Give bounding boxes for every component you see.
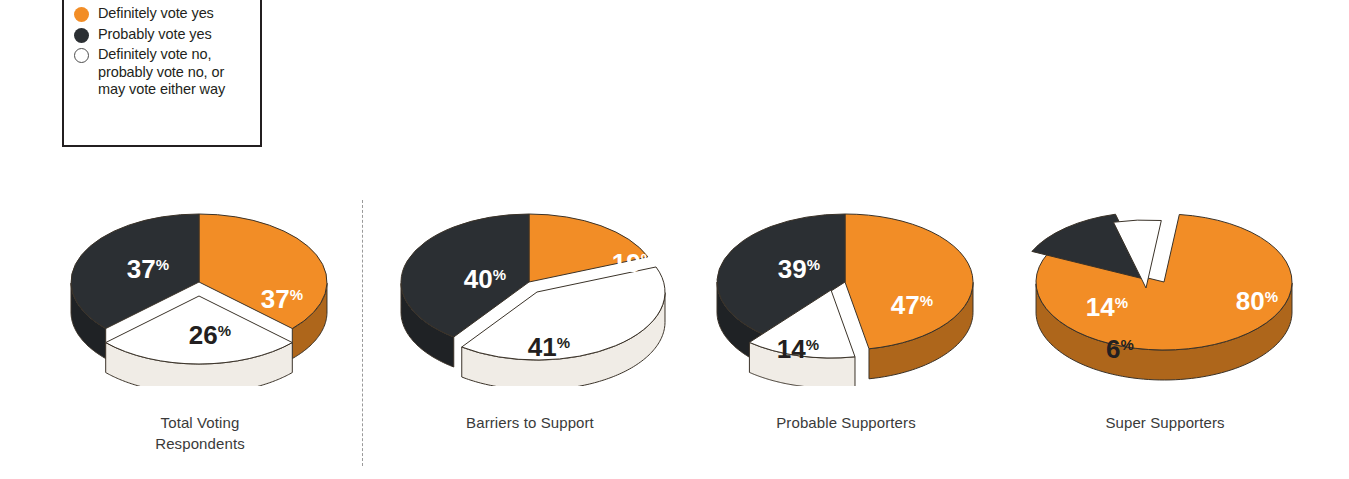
pie-caption: Probable Supporters	[706, 412, 986, 433]
legend-item-no-or-maybe: Definitely vote no, probably vote no, or…	[74, 46, 252, 99]
legend-item-label: Definitely vote no, probably vote no, or…	[98, 46, 225, 99]
legend-box: Definitely vote yes Probably vote yes De…	[62, 0, 262, 147]
pie-chart-probable-supporters: 47%39%14% Probable Supporters	[706, 196, 986, 386]
legend-item-label: Definitely vote yes	[98, 5, 214, 23]
pie-caption: Total Voting Respondents	[60, 412, 340, 454]
pie-chart-super-supporters: 80%14%6% Super Supporters	[1025, 196, 1305, 386]
orange-dot-icon	[74, 7, 89, 22]
legend-item-label: Probably vote yes	[98, 26, 212, 44]
pie-chart-total-voting-respondents: 37%37%26% Total Voting Respondents	[60, 196, 340, 386]
pie-svg: 80%14%6%	[1025, 196, 1305, 386]
dark-dot-icon	[74, 28, 89, 43]
pie-chart-barriers-to-support: 19%40%41% Barriers to Support	[390, 196, 670, 386]
pie-svg: 19%40%41%	[390, 196, 670, 386]
white-dot-icon	[74, 48, 89, 63]
pie-svg: 37%37%26%	[60, 196, 340, 386]
section-divider	[362, 200, 363, 466]
pie-caption: Barriers to Support	[390, 412, 670, 433]
pie-svg: 47%39%14%	[706, 196, 986, 386]
legend-item-probably-yes: Probably vote yes	[74, 26, 252, 44]
pie-caption: Super Supporters	[1025, 412, 1305, 433]
legend-item-definitely-yes: Definitely vote yes	[74, 5, 252, 23]
